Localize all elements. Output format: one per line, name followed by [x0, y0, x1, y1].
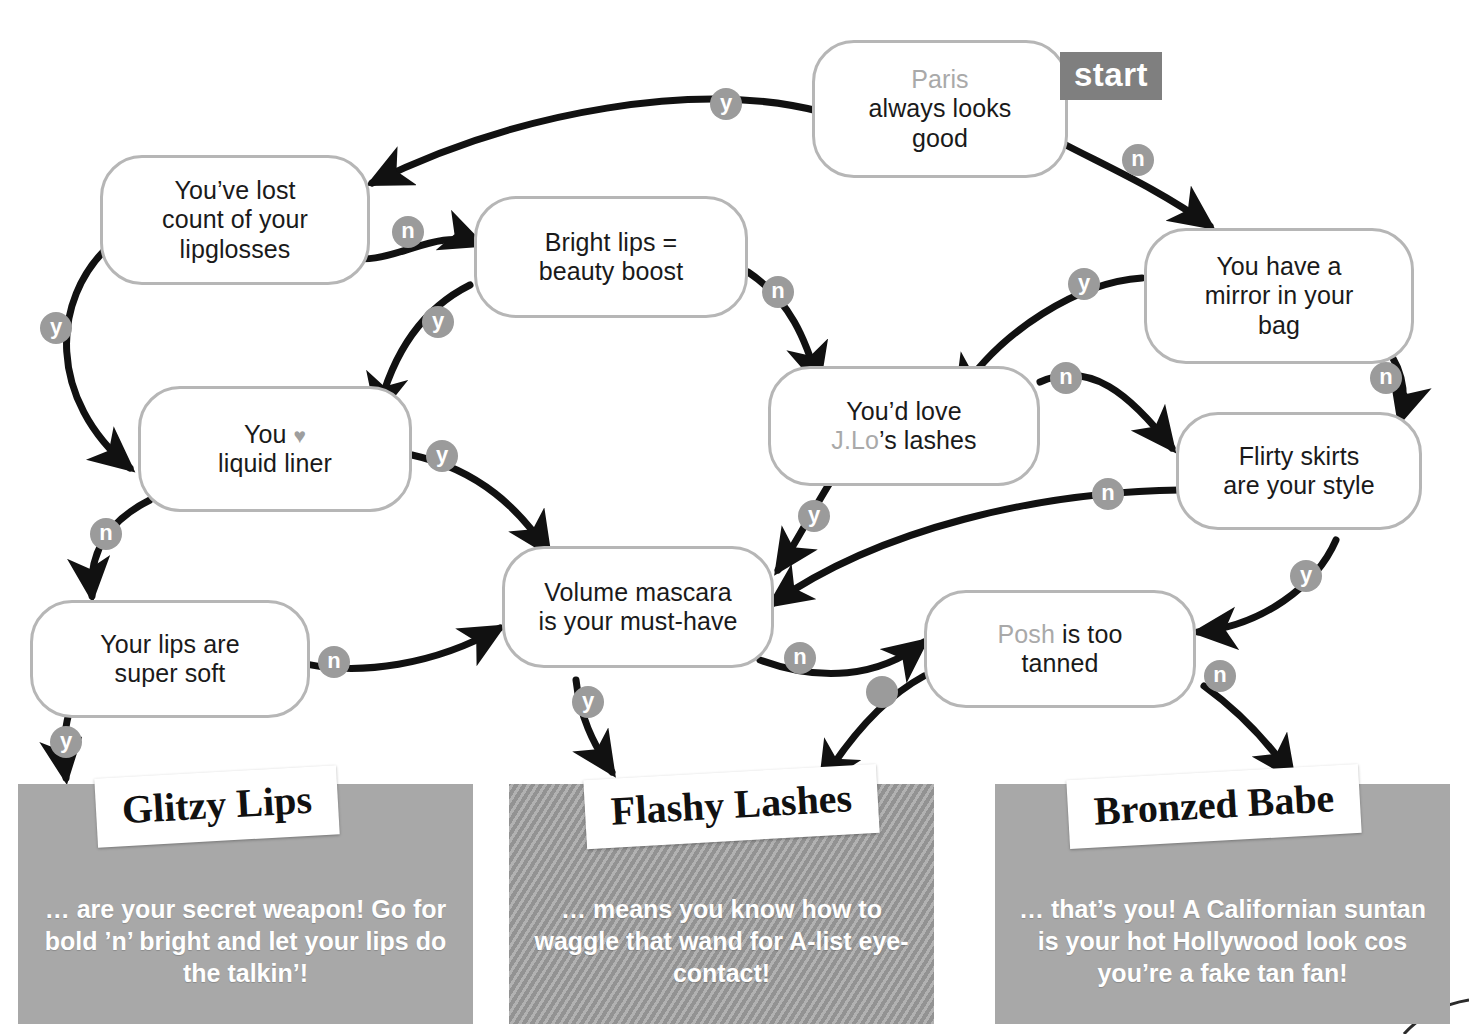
result-label-glitzy: Glitzy Lips: [94, 765, 340, 847]
chip-lipgloss-no: n: [392, 216, 424, 248]
chip-paris-no: n: [1122, 144, 1154, 176]
node-softlips-line-2: super soft: [100, 659, 239, 688]
node-mascara-line-2: is your must-have: [539, 607, 738, 636]
chip-bright-yes: y: [422, 306, 454, 338]
result-bronzed-body: … that’s you! A Californian suntan is yo…: [995, 893, 1450, 989]
node-liner-word: You: [244, 420, 287, 448]
node-mirror-line-2: mirror in your: [1205, 281, 1354, 310]
node-skirts-line-2: are your style: [1223, 471, 1374, 500]
edge-liner-yes: [412, 455, 548, 552]
chip-skirts-no: n: [1092, 478, 1124, 510]
node-skirts-line-1: Flirty skirts: [1223, 442, 1374, 471]
node-jlo-dim: J.Lo: [831, 426, 879, 454]
node-paris-line-1: always looks: [869, 94, 1012, 123]
chip-posh-no: n: [1204, 660, 1236, 692]
node-flirty-skirts[interactable]: Flirty skirts are your style: [1176, 412, 1422, 530]
node-liner-line-2: liquid liner: [218, 449, 332, 478]
node-posh-dim: Posh: [998, 620, 1055, 648]
chip-mirror-no: n: [1370, 362, 1402, 394]
node-mascara-line-1: Volume mascara: [539, 578, 738, 607]
node-bright-line-1: Bright lips =: [539, 228, 683, 257]
node-jlo-lashes[interactable]: You’d love J.Lo’s lashes: [768, 366, 1040, 486]
node-bright-lips[interactable]: Bright lips = beauty boost: [474, 196, 748, 318]
chip-bright-no: n: [762, 276, 794, 308]
node-lipgloss-line-2: count of your: [162, 205, 308, 234]
result-glitzy-body: … are your secret weapon! Go for bold ’n…: [18, 893, 473, 989]
flowchart-canvas: Paris always looks good You’ve lost coun…: [0, 0, 1469, 1034]
start-badge: start: [1060, 52, 1162, 100]
node-softlips-line-1: Your lips are: [100, 630, 239, 659]
node-paris[interactable]: Paris always looks good: [812, 40, 1068, 178]
node-mirror[interactable]: You have a mirror in your bag: [1144, 228, 1414, 364]
node-paris-line-2: good: [869, 124, 1012, 153]
node-lipgloss[interactable]: You’ve lost count of your lipglosses: [100, 155, 370, 285]
chip-jlo-no: n: [1050, 362, 1082, 394]
node-lipgloss-line-3: lipglosses: [162, 235, 308, 264]
node-volume-mascara[interactable]: Volume mascara is your must-have: [502, 546, 774, 668]
node-liquid-liner[interactable]: You ♥ liquid liner: [138, 386, 412, 512]
chip-liner-yes: y: [426, 440, 458, 472]
result-flashy-body: … means you know how to waggle that wand…: [509, 893, 934, 989]
node-posh-tanned[interactable]: Posh is too tanned: [924, 590, 1196, 708]
chip-mascara-yes: y: [572, 686, 604, 718]
chip-mirror-yes: y: [1068, 268, 1100, 300]
chip-jlo-yes: y: [798, 500, 830, 532]
chip-softlips-no: n: [318, 646, 350, 678]
node-mirror-line-3: bag: [1205, 311, 1354, 340]
node-jlo-rest: ’s lashes: [879, 426, 977, 454]
node-mirror-line-1: You have a: [1205, 252, 1354, 281]
node-liner-line-1: You ♥: [218, 420, 332, 449]
chip-lipgloss-yes: y: [40, 312, 72, 344]
node-posh-line-2: tanned: [998, 649, 1123, 678]
node-posh-line-1: Posh is too: [998, 620, 1123, 649]
chip-posh-yes: [866, 676, 898, 708]
chip-skirts-yes: y: [1290, 560, 1322, 592]
node-lipgloss-line-1: You’ve lost: [162, 176, 308, 205]
node-posh-rest: is too: [1062, 620, 1122, 648]
edge-paris-yes: [372, 99, 822, 183]
chip-mascara-no: n: [784, 642, 816, 674]
heart-icon: ♥: [293, 424, 306, 447]
node-soft-lips[interactable]: Your lips are super soft: [30, 600, 310, 718]
chip-liner-no: n: [90, 518, 122, 550]
chip-paris-yes: y: [710, 88, 742, 120]
edge-posh-no: [1204, 686, 1292, 776]
node-jlo-line-1: You’d love: [831, 397, 976, 426]
node-paris-line-dim: Paris: [869, 65, 1012, 94]
edge-skirts-no: [772, 490, 1180, 604]
chip-softlips-yes: y: [50, 726, 82, 758]
node-bright-line-2: beauty boost: [539, 257, 683, 286]
node-jlo-line-2: J.Lo’s lashes: [831, 426, 976, 455]
